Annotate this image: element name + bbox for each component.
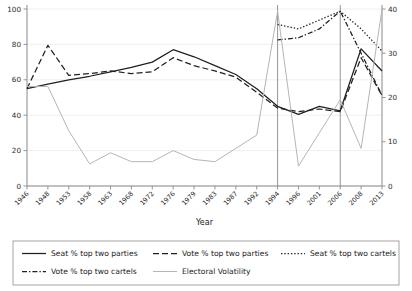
data-series [27, 9, 382, 166]
series-vote-top-two-cartels [278, 11, 382, 95]
x-tick-label: 1948 [34, 190, 52, 208]
y-axis-right-ticks: 010203040 [382, 5, 398, 191]
x-tick-label: 1996 [285, 190, 303, 208]
x-tick-label: 1953 [55, 190, 73, 208]
vertical-event-markers [278, 5, 341, 186]
x-tick-label: 1992 [243, 190, 261, 208]
y2-tick-label: 30 [388, 49, 398, 58]
x-tick-label: 2008 [347, 190, 365, 208]
series-seat-top-two-parties [27, 49, 382, 114]
x-tick-label: 1994 [264, 190, 282, 208]
x-tick-label: 1983 [201, 190, 219, 208]
chart-legend: Seat % top two partiesVote % top two par… [13, 241, 399, 285]
legend-label[interactable]: Seat % top two parties [51, 249, 138, 258]
y2-tick-label: 0 [388, 182, 393, 191]
y-axis-left-ticks: 020406080100 [7, 5, 27, 191]
x-tick-label: 1968 [118, 190, 136, 208]
legend-label[interactable]: Electoral Volatility [182, 267, 251, 276]
y2-tick-label: 40 [388, 5, 398, 14]
x-tick-label: 2001 [305, 190, 323, 208]
y2-tick-label: 20 [388, 93, 398, 102]
x-tick-label: 1976 [159, 190, 177, 208]
chart-root: 020406080100 010203040 19461948195319581… [0, 0, 412, 291]
series-electoral-volatility [27, 9, 382, 166]
x-axis-ticks: 1946194819531958196319681972197619791983… [13, 186, 386, 207]
series-seat-top-two-cartels [278, 11, 382, 51]
x-tick-label: 1958 [76, 190, 94, 208]
x-tick-label: 2013 [368, 190, 386, 208]
y-tick-label: 40 [12, 111, 22, 120]
y-tick-label: 80 [12, 40, 22, 49]
legend-label[interactable]: Seat % top two cartels [310, 249, 396, 258]
gridlines [27, 9, 382, 186]
legend-label[interactable]: Vote % top two parties [182, 249, 268, 258]
y2-tick-label: 10 [388, 137, 398, 146]
x-axis-title: Year [195, 218, 214, 227]
legend-border [13, 241, 399, 285]
x-tick-label: 1979 [180, 190, 198, 208]
x-tick-label: 1972 [138, 190, 156, 208]
axis-spines [27, 5, 382, 186]
y-tick-label: 0 [16, 182, 21, 191]
x-tick-label: 1946 [13, 190, 31, 208]
multi-series-line-chart: 020406080100 010203040 19461948195319581… [0, 0, 412, 291]
legend-label[interactable]: Vote % top two cartels [51, 267, 137, 276]
x-tick-label: 1987 [222, 190, 240, 208]
y-tick-label: 20 [12, 146, 22, 155]
y-tick-label: 60 [12, 75, 22, 84]
x-tick-label: 1963 [97, 190, 115, 208]
y-tick-label: 100 [7, 5, 21, 14]
x-tick-label: 2006 [326, 190, 344, 208]
